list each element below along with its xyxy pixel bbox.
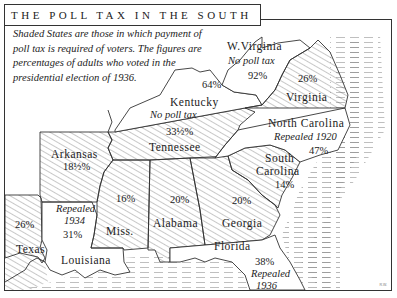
note-louisiana-1: Repealed [56,204,95,215]
pct-west-virginia: 92% [248,71,267,82]
label-south-carolina-2: Carolina [256,166,300,178]
pct-louisiana: 31% [63,230,82,241]
label-alabama: Alabama [153,218,198,230]
map-title: THE POLL TAX IN THE SOUTH [11,9,252,21]
label-mississippi: Miss. [106,226,134,238]
note-west-virginia: No poll tax [228,56,275,67]
title-box: THE POLL TAX IN THE SOUTH [4,4,261,26]
note-north-carolina: Repealed 1920 [274,132,337,143]
label-virginia: Virginia [286,92,327,104]
note-florida-2: 1936 [256,281,277,292]
map-caption: Shaded States are those in which payment… [13,27,213,85]
note-louisiana-2: 1934 [64,216,85,227]
pct-georgia: 20% [232,196,251,207]
label-kentucky: Kentucky [170,97,219,109]
pct-texas: 26% [15,220,34,231]
pct-arkansas: 18½% [63,162,90,173]
pct-kentucky: 64% [202,80,221,91]
label-tennessee: Tennessee [149,142,201,154]
pct-south-carolina: 14% [275,180,294,191]
pct-north-carolina: 47% [309,146,328,157]
pct-tennessee: 33½% [166,127,193,138]
artist-credit: R.W. [379,283,387,287]
label-arkansas: Arkansas [51,149,98,161]
label-north-carolina: North Carolina [268,118,344,130]
pct-alabama: 20% [170,195,189,206]
label-west-virginia: W.Virginia [227,41,282,53]
label-louisiana: Louisiana [61,255,111,267]
label-florida: Florida [214,241,251,253]
label-georgia: Georgia [222,218,262,230]
pct-virginia: 26% [298,74,317,85]
label-south-carolina-1: South [265,153,294,165]
note-kentucky: No poll tax [150,110,197,121]
pct-mississippi: 16% [116,194,135,205]
pct-florida: 38% [255,257,274,268]
label-texas: Texas [16,244,45,256]
note-florida-1: Repealed [251,269,290,280]
